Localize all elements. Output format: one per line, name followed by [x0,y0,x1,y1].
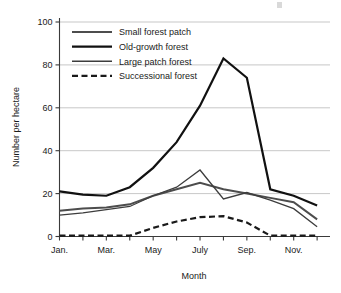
line-chart: 020406080100 Jan.Mar.MayJulySep.Nov. Sma… [0,0,341,293]
series-line-small-forest-patch [60,183,318,219]
legend-label-old-growth-forest: Old-growth forest [119,42,189,52]
x-tick-label: Nov. [285,245,303,255]
x-axis-tick-labels: Jan.Mar.MayJulySep.Nov. [51,245,303,255]
x-tick-label: July [192,245,209,255]
x-tick-label: Jan. [51,245,68,255]
y-axis-tick-labels: 020406080100 [37,17,52,242]
y-tick-label: 40 [42,146,52,156]
y-tick-label: 0 [47,232,52,242]
x-axis-title: Month [181,271,206,281]
y-tick-label: 20 [42,189,52,199]
legend-label-large-patch-forest: Large patch forest [119,57,192,67]
gridlines [60,22,331,194]
data-series-group [60,58,318,235]
y-axis-ticks [56,22,60,237]
y-axis-title: Number per hectare [11,87,21,167]
x-tick-label: Mar. [98,245,116,255]
y-tick-label: 80 [42,60,52,70]
x-axis-ticks [60,237,318,241]
y-tick-label: 100 [37,17,52,27]
legend-label-successional-forest: Successional forest [119,71,198,81]
chart-container: 020406080100 Jan.Mar.MayJulySep.Nov. Sma… [0,0,341,293]
chart-legend: Small forest patchOld-growth forestLarge… [72,27,198,81]
x-tick-label: Sep. [238,245,257,255]
legend-label-small-forest-patch: Small forest patch [119,27,191,37]
scan-artifact [277,2,282,8]
y-tick-label: 60 [42,103,52,113]
x-tick-label: May [145,245,163,255]
series-line-successional-forest [60,216,318,236]
